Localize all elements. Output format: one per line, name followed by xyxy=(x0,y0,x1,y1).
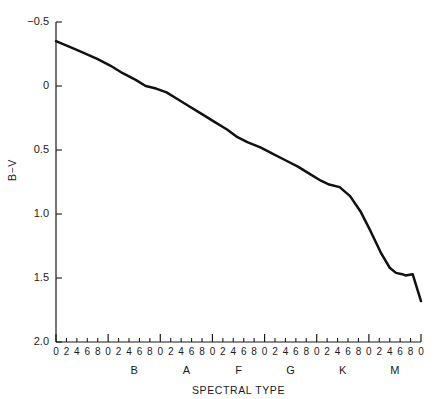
x-tick-label-28: 6 xyxy=(345,346,351,357)
x-tick-label-29: 8 xyxy=(356,346,362,357)
x-tick-label-27: 4 xyxy=(335,346,341,357)
y-tick-label-3: 1.0 xyxy=(34,207,49,219)
y-tick-label-4: 1.5 xyxy=(34,271,49,283)
x-tick-label-10: 0 xyxy=(158,346,164,357)
axis-frame xyxy=(56,22,421,342)
chart-container: −0.500.51.01.52.0 0246802468024680246802… xyxy=(0,0,440,399)
x-tick-label-16: 2 xyxy=(220,346,226,357)
class-label-A: A xyxy=(183,364,191,376)
y-tick-label-2: 0.5 xyxy=(34,143,49,155)
x-tick-label-21: 2 xyxy=(272,346,278,357)
x-tick-label-30: 0 xyxy=(366,346,372,357)
x-tick-label-22: 4 xyxy=(283,346,289,357)
y-tick-label-5: 2.0 xyxy=(34,335,49,347)
x-tick-label-13: 6 xyxy=(189,346,195,357)
x-axis-title: SPECTRAL TYPE xyxy=(192,384,285,396)
x-axis-class-labels: BAFGKM xyxy=(131,364,400,376)
y-tick-label-1: 0 xyxy=(43,79,49,91)
y-axis-tick-labels: −0.500.51.01.52.0 xyxy=(27,15,49,347)
x-tick-label-25: 0 xyxy=(314,346,320,357)
x-tick-label-17: 4 xyxy=(231,346,237,357)
class-label-B: B xyxy=(131,364,138,376)
x-tick-label-34: 8 xyxy=(408,346,414,357)
x-tick-label-0: 0 xyxy=(53,346,59,357)
x-tick-label-32: 4 xyxy=(387,346,393,357)
x-tick-label-3: 6 xyxy=(85,346,91,357)
x-tick-label-15: 0 xyxy=(210,346,216,357)
x-tick-label-9: 8 xyxy=(147,346,153,357)
x-tick-label-19: 8 xyxy=(251,346,257,357)
class-label-M: M xyxy=(390,364,399,376)
x-tick-label-5: 0 xyxy=(105,346,111,357)
x-tick-label-23: 6 xyxy=(293,346,299,357)
x-tick-label-2: 4 xyxy=(74,346,80,357)
x-tick-label-14: 8 xyxy=(199,346,205,357)
x-tick-label-35: 0 xyxy=(418,346,424,357)
x-tick-label-12: 4 xyxy=(178,346,184,357)
y-tick-label-0: −0.5 xyxy=(27,15,49,27)
y-axis-title: B−V xyxy=(6,159,18,181)
class-label-F: F xyxy=(235,364,242,376)
x-tick-label-24: 8 xyxy=(304,346,310,357)
class-label-G: G xyxy=(286,364,295,376)
spectral-type-color-chart: −0.500.51.01.52.0 0246802468024680246802… xyxy=(0,0,440,399)
x-tick-label-18: 6 xyxy=(241,346,247,357)
x-tick-label-6: 2 xyxy=(116,346,122,357)
x-tick-label-4: 8 xyxy=(95,346,101,357)
x-axis-tick-labels: 024680246802468024680246802468024680 xyxy=(53,346,424,357)
x-tick-label-11: 2 xyxy=(168,346,174,357)
y-axis-ticks xyxy=(56,22,62,342)
x-tick-label-20: 0 xyxy=(262,346,268,357)
x-tick-label-1: 2 xyxy=(64,346,70,357)
class-label-K: K xyxy=(339,364,347,376)
x-tick-label-8: 6 xyxy=(137,346,143,357)
x-tick-label-7: 4 xyxy=(126,346,132,357)
x-tick-label-26: 2 xyxy=(324,346,330,357)
x-axis-ticks xyxy=(56,334,421,342)
b-minus-v-curve xyxy=(56,41,421,301)
x-tick-label-31: 2 xyxy=(377,346,383,357)
x-tick-label-33: 6 xyxy=(397,346,403,357)
